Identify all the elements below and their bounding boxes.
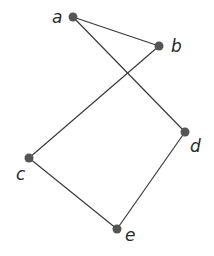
labels: abcde bbox=[16, 7, 201, 245]
node-label-e: e bbox=[125, 225, 135, 245]
edge-d-e bbox=[117, 132, 185, 229]
nodes bbox=[25, 13, 190, 234]
node-e bbox=[113, 225, 122, 234]
edge-b-c bbox=[29, 46, 159, 158]
graph-diagram: abcde bbox=[0, 0, 214, 256]
node-a bbox=[69, 13, 78, 22]
node-label-a: a bbox=[52, 7, 62, 27]
node-b bbox=[155, 42, 164, 51]
node-label-b: b bbox=[171, 36, 182, 56]
edge-a-d bbox=[73, 17, 185, 132]
node-c bbox=[25, 154, 34, 163]
node-label-d: d bbox=[190, 136, 201, 156]
node-d bbox=[181, 128, 190, 137]
edge-c-e bbox=[29, 158, 117, 229]
edge-a-b bbox=[73, 17, 159, 46]
node-label-c: c bbox=[16, 164, 26, 184]
